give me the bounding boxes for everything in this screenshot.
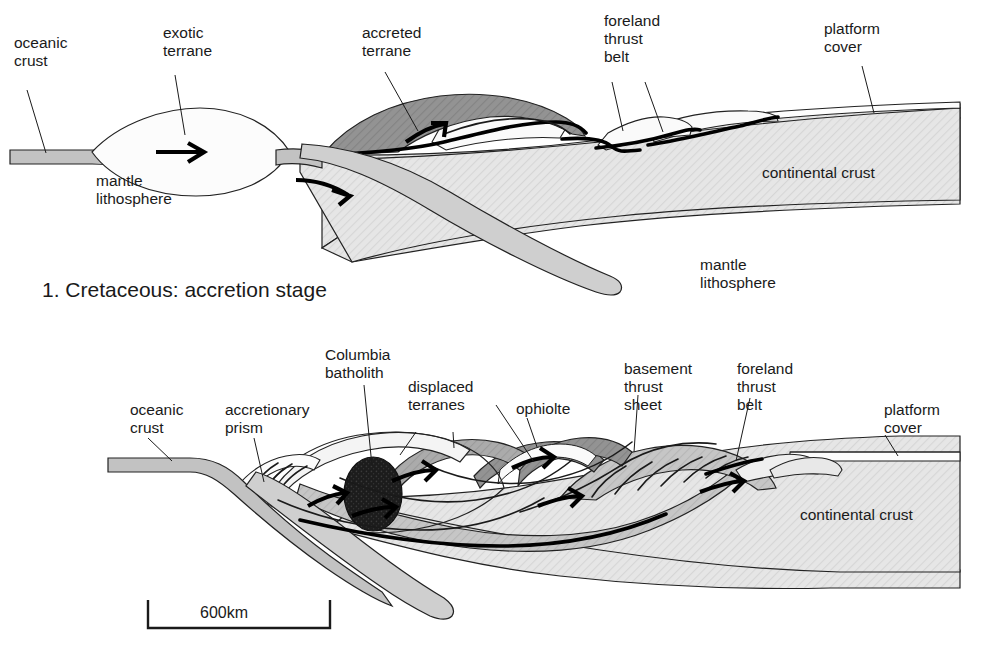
label-mantle-lithosphere-right-line1: mantle [700,256,747,273]
label-basement-thrust-sheet-line3: sheet [624,396,663,413]
label-scale-bar: 600km [200,604,248,621]
label-accretionary-prism-line2: prism [225,419,263,436]
label-columbia-batholith-line2: batholith [325,364,384,381]
label-displaced-terranes-line1: displaced [408,378,474,395]
label-mantle-lithosphere-right-line2: lithosphere [700,274,776,291]
label-foreland-thrust-belt-bottom-line1: foreland [737,360,793,377]
label-foreland-thrust-belt-top-line2: thrust [604,30,643,47]
label-accretionary-prism-line1: accretionary [225,401,310,418]
leader-oceanic-crust-top [27,90,46,153]
label-displaced-terranes-line2: terranes [408,396,465,413]
label-continental-crust-top: continental crust [762,164,876,181]
label-platform-cover-top-line2: cover [824,38,862,55]
label-columbia-batholith-line1: Columbia [325,346,391,363]
label-oceanic-crust-top-line1: oceanic [14,34,68,51]
leader-foreland-thrust-belt-a-top [612,82,623,131]
label-accreted-terrane-line2: terrane [362,42,411,59]
label-oceanic-crust-bottom-line2: crust [130,419,164,436]
label-mantle-lithosphere-left-line2: lithosphere [96,190,172,207]
label-foreland-thrust-belt-bottom-line2: thrust [737,378,776,395]
label-basement-thrust-sheet-line1: basement [624,360,693,377]
label-continental-crust-bottom: continental crust [800,506,914,523]
columbia-batholith-body-bottom [344,457,402,531]
leader-columbia-batholith-bottom [364,385,372,466]
label-exotic-terrane-line2: terrane [163,42,212,59]
label-foreland-thrust-belt-top-line3: belt [604,48,630,65]
label-platform-cover-bottom-line1: platform [884,401,940,418]
label-oceanic-crust-bottom-line1: oceanic [130,401,184,418]
panel-top-stage-title: 1. Cretaceous: accretion stage [42,278,327,301]
tectonic-cross-section-figure: oceanic crust exotic terrane mantle lith… [0,0,981,651]
figure-root: oceanic crust exotic terrane mantle lith… [0,0,981,651]
leader-ophiolite-b-bottom [527,418,537,447]
label-accreted-terrane-line1: accreted [362,24,421,41]
label-ophiolite: ophiolte [516,400,570,417]
label-mantle-lithosphere-left-line1: mantle [96,172,143,189]
label-platform-cover-bottom-line2: cover [884,419,922,436]
label-oceanic-crust-top-line2: crust [14,52,48,69]
label-foreland-thrust-belt-top-line1: foreland [604,12,660,29]
label-exotic-terrane-line1: exotic [163,24,204,41]
label-basement-thrust-sheet-line2: thrust [624,378,663,395]
label-platform-cover-top-line1: platform [824,20,880,37]
label-foreland-thrust-belt-bottom-line3: belt [737,396,763,413]
